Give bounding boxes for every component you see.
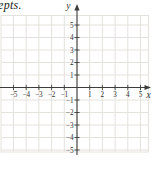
y-tick-label: 3 [70, 47, 74, 55]
x-tick-label: −2 [48, 91, 56, 99]
y-tick-label: −4 [66, 134, 74, 142]
x-tick-label: 5 [139, 91, 143, 99]
x-tick-label: 2 [101, 91, 105, 99]
y-tick-label: −2 [66, 109, 74, 117]
y-tick-label: −5 [66, 147, 74, 155]
x-tick-label: 4 [126, 91, 130, 99]
y-tick-label: −1 [66, 97, 74, 105]
grid-border [1, 16, 149, 153]
y-tick-label: 1 [70, 72, 74, 80]
figure-page: epts. −5−4−3−2−112345−5−4−3−2−112345xy [0, 0, 155, 170]
x-tick-label: 1 [88, 91, 92, 99]
y-tick-label: 2 [70, 59, 74, 67]
y-tick-label: 5 [70, 22, 74, 30]
y-axis-arrow-icon [74, 4, 79, 11]
y-tick-label: −3 [66, 122, 74, 130]
x-tick-label: −3 [35, 91, 43, 99]
x-tick-label: −4 [22, 91, 30, 99]
x-tick-label: −5 [10, 91, 18, 99]
coordinate-plane: −5−4−3−2−112345−5−4−3−2−112345xy [0, 0, 155, 170]
y-axis-label: y [65, 1, 71, 11]
x-tick-label: 3 [113, 91, 117, 99]
x-axis-label: x [146, 90, 152, 100]
y-tick-label: 4 [70, 34, 74, 42]
